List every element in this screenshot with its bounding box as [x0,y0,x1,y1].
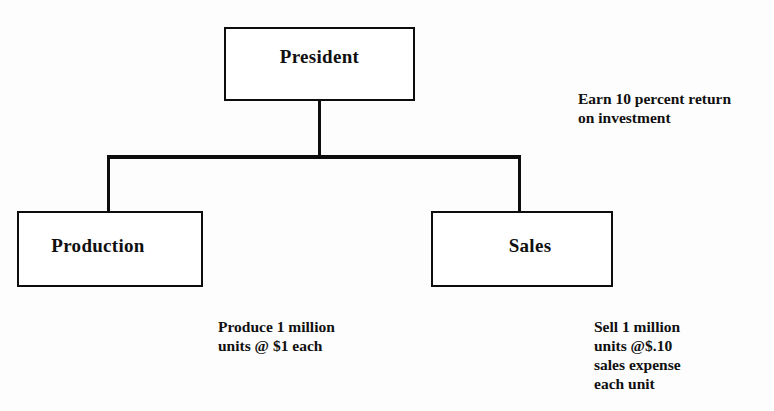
node-production: Production [17,211,203,287]
node-sales-label: Sales [509,236,552,255]
annotation-return-on-investment: Earn 10 percent return on investment [578,90,731,128]
annotation-sales-objective: Sell 1 million units @$.10 sales expense… [594,318,681,394]
connector-president-stem [318,101,321,159]
node-sales: Sales [431,211,613,287]
connector-drop-production [107,155,110,213]
node-president: President [224,27,415,101]
connector-horizontal-bus [107,155,521,159]
diagram-canvas: President Production Sales Earn 10 perce… [0,0,774,411]
node-president-label: President [280,47,359,66]
node-production-label: Production [51,236,144,255]
annotation-production-objective: Produce 1 million units @ $1 each [218,318,335,356]
connector-drop-sales [518,155,521,213]
